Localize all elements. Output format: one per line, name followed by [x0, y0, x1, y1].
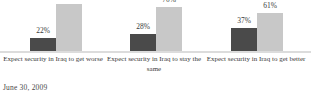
bar-value-label: 76% [62, 0, 76, 1]
bar-group: 28% 70% [104, 0, 204, 52]
category-label: Expect security in Iraq to get better [204, 55, 308, 65]
bar-light-series[interactable]: 76% [56, 4, 82, 52]
bar-dark-series[interactable]: 22% [30, 38, 56, 52]
bar-light-series[interactable]: 70% [156, 7, 182, 52]
plot-area: 22% 76% 28% 70% 37% 61% [0, 0, 311, 52]
bar-group: 37% 61% [205, 0, 305, 52]
bar-value-label: 22% [36, 26, 50, 35]
chart-footer-date: June 30, 2009 [3, 83, 47, 93]
category-axis-labels: Expect security in Iraq to get worse Exp… [0, 55, 311, 79]
bar-value-label: 70% [162, 0, 176, 4]
bar-group: 22% 76% [4, 0, 104, 52]
category-label: Expect security in Iraq to stay the same [103, 55, 205, 74]
bar-dark-series[interactable]: 28% [130, 34, 156, 52]
bar-value-label: 28% [136, 22, 150, 31]
category-label: Expect security in Iraq to get worse [2, 55, 104, 65]
bar-light-series[interactable]: 61% [257, 13, 283, 52]
bar-value-label: 37% [237, 16, 251, 25]
grouped-bar-chart: 22% 76% 28% 70% 37% 61% Expect security [0, 0, 311, 99]
axis-baseline [0, 51, 311, 53]
bar-dark-series[interactable]: 37% [231, 28, 257, 52]
bar-value-label: 61% [263, 1, 277, 10]
